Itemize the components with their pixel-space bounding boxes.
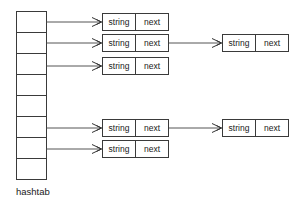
- node-string-label: string: [109, 17, 130, 27]
- hashtab-cell-4: [17, 96, 47, 117]
- node-string-label: string: [109, 61, 130, 71]
- hashtab-cell-5: [17, 117, 47, 138]
- node-string-label: string: [109, 144, 130, 154]
- node-string-label: string: [109, 38, 130, 48]
- node-next-label: next: [144, 123, 161, 133]
- node-next-label: next: [144, 38, 161, 48]
- hashtab-cell-2: [17, 54, 47, 75]
- node-string-label: string: [229, 123, 250, 133]
- hashtab-caption: hashtab: [16, 186, 50, 197]
- node-n-5-0: string next: [103, 120, 169, 137]
- node-column-1: string next string next string next: [103, 14, 169, 158]
- node-n-6-0: string next: [103, 141, 169, 158]
- node-next-label: next: [264, 123, 281, 133]
- node-n-1-1: string next: [223, 35, 289, 52]
- node-next-label: next: [144, 61, 161, 71]
- node-next-label: next: [144, 144, 161, 154]
- node-n-0-0: string next: [103, 14, 169, 31]
- node-string-label: string: [229, 38, 250, 48]
- hash-table-diagram: string next string next string next: [0, 0, 308, 208]
- hashtab-cell-7: [17, 159, 47, 180]
- node-next-label: next: [144, 17, 161, 27]
- hashtab-cell-0: [17, 12, 47, 33]
- node-n-1-0: string next: [103, 35, 169, 52]
- node-next-label: next: [264, 38, 281, 48]
- node-string-label: string: [109, 123, 130, 133]
- hashtab-cell-6: [17, 138, 47, 159]
- node-chain-connectors: [169, 39, 222, 133]
- node-n-5-1: string next: [223, 120, 289, 137]
- node-column-2: string next string next: [223, 35, 289, 137]
- hashtab-cell-1: [17, 33, 47, 54]
- hashtab-cell-3: [17, 75, 47, 96]
- hashtab-array: [17, 12, 47, 180]
- bucket-connectors: [47, 18, 102, 154]
- node-n-2-0: string next: [103, 58, 169, 75]
